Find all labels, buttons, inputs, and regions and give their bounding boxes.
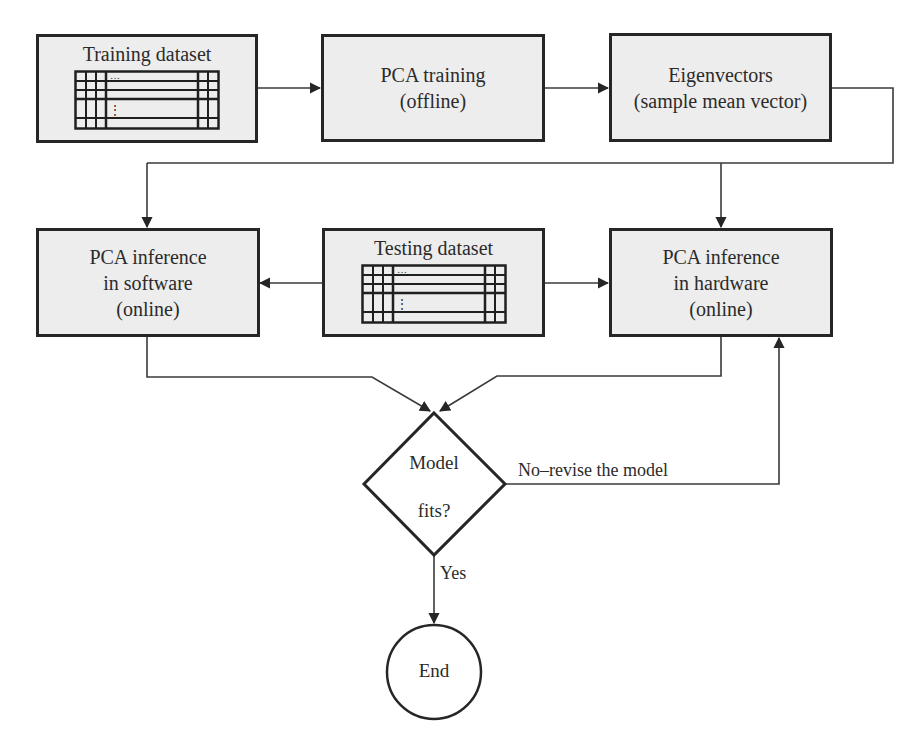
software-line3: (online)	[116, 296, 179, 322]
edge-hardware-to-decision	[440, 336, 721, 411]
eigenvectors-node: Eigenvectors (sample mean vector)	[609, 33, 832, 142]
pca-inference-software-node: PCA inference in software (online)	[36, 228, 260, 337]
pca-training-line2: (offline)	[400, 88, 466, 114]
pca-training-line1: PCA training	[380, 62, 485, 88]
pca-training-node: PCA training (offline)	[321, 34, 545, 142]
ellipsis-vertical: ⋮	[109, 103, 121, 117]
data-table-icon: … ⋮	[74, 70, 220, 130]
ellipsis-horizontal: …	[110, 70, 120, 81]
testing-dataset-node: Testing dataset … ⋮	[322, 228, 545, 337]
yes-label: Yes	[440, 563, 466, 584]
hardware-line1: PCA inference	[662, 244, 779, 270]
ellipsis-vertical: ⋮	[396, 297, 408, 311]
pca-inference-hardware-node: PCA inference in hardware (online)	[609, 228, 833, 337]
hardware-line2: in hardware	[674, 270, 769, 296]
testing-dataset-title: Testing dataset	[374, 235, 493, 261]
end-label: End	[394, 660, 474, 682]
eigenvectors-line1: Eigenvectors	[668, 62, 772, 88]
no-revise-label: No–revise the model	[518, 460, 668, 481]
eigenvectors-line2: (sample mean vector)	[634, 88, 807, 114]
edge-software-to-decision	[147, 337, 430, 411]
hardware-line3: (online)	[689, 296, 752, 322]
data-table-icon: … ⋮	[361, 264, 507, 324]
training-dataset-node: Training dataset … ⋮	[36, 34, 258, 143]
software-line2: in software	[103, 270, 192, 296]
ellipsis-horizontal: …	[397, 264, 407, 275]
decision-line2: fits?	[394, 500, 474, 522]
software-line1: PCA inference	[89, 244, 206, 270]
training-dataset-title: Training dataset	[83, 41, 212, 67]
decision-line1: Model	[394, 452, 474, 474]
decision-diamond	[364, 413, 505, 555]
